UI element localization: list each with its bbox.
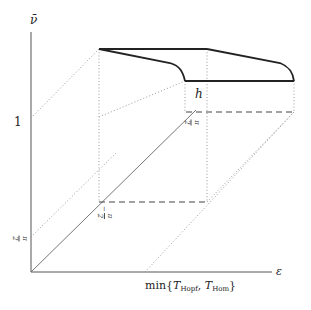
den: 2 [183,120,190,124]
frac-pi-over-2-upper: π2 [183,120,200,126]
y-tick-one: 1 [14,116,22,128]
h-label: h [195,88,203,100]
minus-sign: − [100,206,108,212]
dotted-guides [31,49,294,272]
x-tick-min-label: min{THopf, THom} [145,280,236,293]
diagonal-line-h [31,110,196,272]
t-hopf-sub: Hopf [180,285,197,293]
t-hom-sub: Hom [212,285,229,293]
den: 2 [11,236,18,240]
num: π [106,214,113,219]
x-axis-label: ε [276,266,282,277]
num: π [21,236,28,241]
diagram-canvas [0,0,311,310]
den: 2 [96,214,103,218]
frac-minus-pi-over-2: − π2 [96,206,113,219]
min-suffix: } [229,279,236,292]
thick-curves [99,49,294,81]
min-prefix: min{ [145,279,173,292]
sep: , [198,279,205,292]
dashed-levels [99,112,294,202]
y-axis-label: ν̄ [30,14,37,26]
num: π [193,120,200,125]
frac-pi-over-2-axis: π2 [11,236,28,242]
